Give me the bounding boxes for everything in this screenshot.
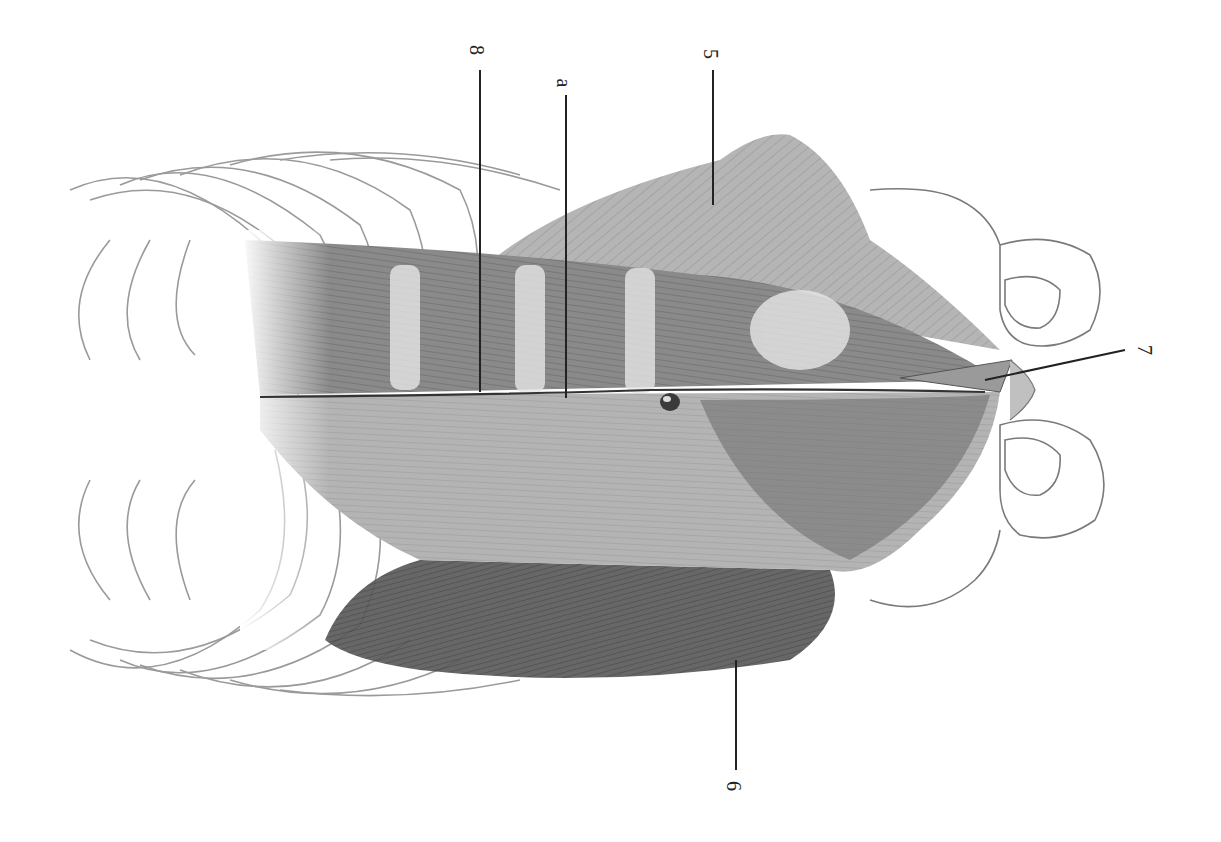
umbilicus xyxy=(660,393,680,411)
label-5: 5 xyxy=(701,49,721,59)
label-8: 8 xyxy=(467,45,487,55)
anatomical-illustration xyxy=(0,0,1221,842)
fade xyxy=(240,230,330,650)
label-7: 7 xyxy=(1135,345,1155,355)
label-a: a xyxy=(554,79,574,88)
external-oblique-lower xyxy=(325,560,835,678)
label-6: 6 xyxy=(724,781,744,791)
